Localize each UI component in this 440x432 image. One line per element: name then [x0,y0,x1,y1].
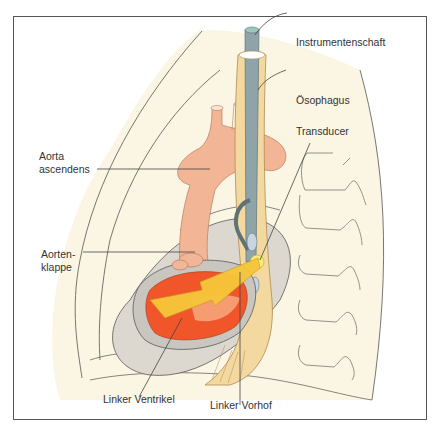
label-left-ventricle: Linker Ventrikel [103,393,175,406]
aorta-branch [211,106,223,111]
leader-instrument-shaft [255,13,287,35]
label-aortic-valve-1: Aorten- [41,248,75,261]
tee-illustration: Instrumentenschaft Ösophagus Transducer … [0,0,440,432]
label-aorta-ascendens-1: Aorta [39,150,64,163]
label-esophagus: Ösophagus [296,94,350,107]
anatomy-drawing [0,0,440,432]
label-transducer: Transducer [296,125,349,138]
label-aorta-ascendens-2: ascendens [39,163,90,176]
probe-balloon [247,233,257,251]
label-instrument-shaft: Instrumentenschaft [296,36,385,49]
esophagus-opening [239,51,265,59]
label-aortic-valve-2: klappe [41,261,72,274]
label-left-atrium: Linker Vorhof [210,399,272,412]
